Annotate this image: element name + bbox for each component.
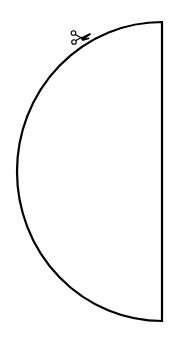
diagram-canvas: Semicircle cut-out template [0,0,173,343]
semicircle-outline [17,22,162,321]
